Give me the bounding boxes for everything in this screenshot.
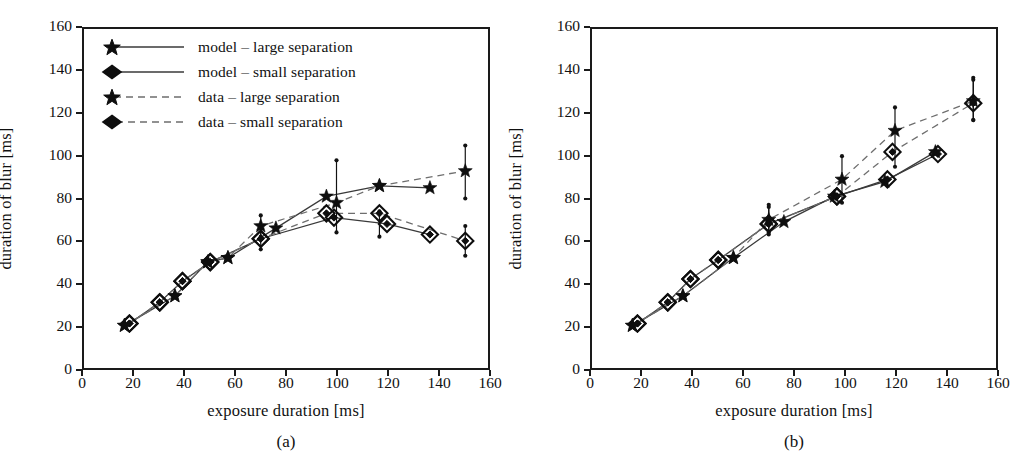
x-tick-label: 20 (618, 374, 664, 392)
x-tick-mark (895, 370, 897, 376)
panel-a-y-axis-label: duration of blur [ms] (0, 27, 14, 370)
x-tick-mark (489, 370, 491, 376)
error-bar-cap (463, 196, 467, 200)
legend-symbol-star-dashed-icon (100, 86, 188, 108)
x-tick-label: 60 (212, 374, 258, 392)
x-tick-mark (793, 370, 795, 376)
legend-item: data – large separation (100, 84, 356, 109)
x-tick-mark (691, 370, 693, 376)
panel-a: 020406080100120140160 duration of blur [… (0, 0, 510, 474)
x-tick-label: 160 (467, 374, 513, 392)
data-point-marker (676, 289, 690, 302)
x-tick-label: 0 (567, 374, 613, 392)
x-tick-mark (234, 370, 236, 376)
x-tick-label: 140 (416, 374, 462, 392)
figure-two-panel-chart: 020406080100120140160 duration of blur [… (0, 0, 1020, 474)
data-point-marker (884, 144, 900, 160)
x-tick-label: 0 (59, 374, 105, 392)
error-bar-cap (893, 105, 897, 109)
x-tick-mark (183, 370, 185, 376)
legend-symbol-star-solid-icon (100, 36, 188, 58)
series-line (124, 171, 465, 326)
error-bar-cap (259, 213, 263, 217)
legend-symbol-diamond-solid-icon (100, 61, 188, 83)
x-tick-label: 40 (669, 374, 715, 392)
legend-label: model – large separation (188, 39, 353, 55)
x-tick-mark (946, 370, 948, 376)
panel-b-x-axis-label: exposure duration [ms] (590, 401, 998, 421)
error-bar-cap (463, 254, 467, 258)
x-tick-label: 100 (822, 374, 868, 392)
x-tick-mark (438, 370, 440, 376)
data-point-marker (372, 178, 386, 191)
x-tick-label: 60 (720, 374, 766, 392)
x-tick-label: 100 (314, 374, 360, 392)
panel-b-plot-area (590, 27, 998, 370)
series-line (129, 213, 465, 323)
error-bar-cap (334, 158, 338, 162)
error-bar-cap (893, 165, 897, 169)
x-tick-label: 160 (975, 374, 1020, 392)
x-tick-mark (640, 370, 642, 376)
x-tick-label: 80 (771, 374, 817, 392)
data-point-marker (422, 226, 438, 242)
series-line (124, 186, 430, 326)
x-tick-mark (387, 370, 389, 376)
x-tick-mark (336, 370, 338, 376)
error-bar-cap (971, 118, 975, 122)
x-tick-label: 140 (924, 374, 970, 392)
panel-a-caption: (a) (82, 432, 490, 452)
x-tick-mark (81, 370, 83, 376)
panel-b-caption: (b) (590, 432, 998, 452)
x-tick-mark (589, 370, 591, 376)
legend-item: model – large separation (100, 34, 356, 59)
legend-item: model – small separation (100, 59, 356, 84)
legend-item: data – small separation (100, 109, 356, 134)
error-bar-cap (334, 230, 338, 234)
error-bar-cap (767, 205, 771, 209)
error-bar-cap (971, 78, 975, 82)
x-tick-label: 40 (161, 374, 207, 392)
x-tick-mark (997, 370, 999, 376)
series-line (637, 103, 973, 323)
panel-b: 020406080100120140160 duration of blur [… (510, 0, 1020, 474)
legend-label: model – small separation (188, 64, 356, 80)
legend-label: data – small separation (188, 114, 343, 130)
x-tick-label: 120 (365, 374, 411, 392)
x-tick-label: 20 (110, 374, 156, 392)
panel-a-x-axis-label: exposure duration [ms] (82, 401, 490, 421)
error-bar-cap (377, 235, 381, 239)
data-point-marker (423, 181, 437, 194)
error-bar-cap (463, 224, 467, 228)
error-bar-cap (463, 143, 467, 147)
panel-b-data-canvas (592, 29, 996, 368)
x-tick-mark (132, 370, 134, 376)
legend-symbol-diamond-dashed-icon (100, 111, 188, 133)
error-bar-cap (840, 154, 844, 158)
x-tick-label: 120 (873, 374, 919, 392)
x-tick-mark (285, 370, 287, 376)
legend-label: data – large separation (188, 89, 340, 105)
x-tick-label: 80 (263, 374, 309, 392)
panel-b-y-axis-label: duration of blur [ms] (506, 27, 524, 370)
x-tick-mark (742, 370, 744, 376)
x-tick-mark (844, 370, 846, 376)
panel-a-legend: model – large separation model – small s… (100, 34, 356, 134)
